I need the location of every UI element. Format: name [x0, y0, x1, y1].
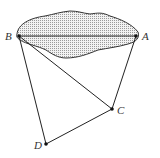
- segment-BD: [19, 36, 46, 144]
- label-B: B: [5, 30, 12, 42]
- label-A: A: [141, 30, 149, 42]
- label-C: C: [117, 104, 125, 116]
- point-B: [17, 34, 21, 38]
- label-D: D: [33, 139, 42, 151]
- geometry-diagram: A B C D: [0, 0, 160, 158]
- point-C: [110, 107, 114, 111]
- segment-CD: [46, 109, 112, 144]
- point-A: [134, 34, 138, 38]
- point-D: [44, 142, 48, 146]
- shaded-region: [17, 11, 139, 58]
